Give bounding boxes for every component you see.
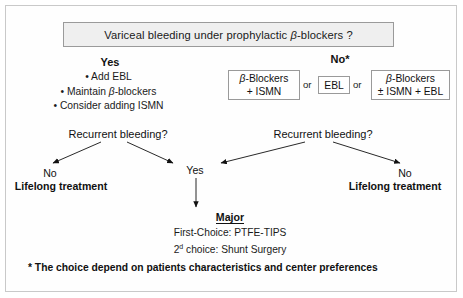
second-choice-text: choice: Shunt Surgery xyxy=(183,244,286,255)
decision-node-right: Recurrent bleeding? xyxy=(248,128,398,140)
treatment-box-line-1: β-Blockers xyxy=(240,72,289,85)
treatment-box-ebl: EBL xyxy=(318,76,350,94)
outcome-lifelong-right: Lifelong treatment xyxy=(335,180,455,192)
yes-branch-heading: Yes xyxy=(60,56,160,68)
outcome-no-right: No xyxy=(375,167,435,179)
outcome-no-left: No xyxy=(20,167,80,179)
treatment-box-betablockers-ismn-ebl: β-Blockers ± ISMN + EBL xyxy=(371,70,450,100)
bullet-item: • Consider adding ISMN xyxy=(6,99,211,114)
yes-branch-bullet-list: • Add EBL • Maintain β-blockers • Consid… xyxy=(6,70,211,114)
treatment-box-line-1: β-Blockers xyxy=(386,72,435,85)
treatment-box-betablockers-ismn: β-Blockers + ISMN xyxy=(228,70,300,100)
title-box: Variceal bleeding under prophylactic β-b… xyxy=(63,22,394,47)
major-heading-text: Major xyxy=(216,211,244,224)
major-heading: Major xyxy=(150,211,310,223)
major-second-choice: 2d choice: Shunt Surgery xyxy=(130,240,330,257)
outcome-yes-center: Yes xyxy=(170,164,220,176)
major-options: First-Choice: PTFE-TIPS 2d choice: Shunt… xyxy=(130,226,330,256)
bullet-item: • Add EBL xyxy=(6,70,211,85)
flowchart-figure: Variceal bleeding under prophylactic β-b… xyxy=(0,0,463,298)
major-first-choice: First-Choice: PTFE-TIPS xyxy=(130,226,330,240)
no-branch-heading: No* xyxy=(300,53,380,65)
or-connector: or xyxy=(303,79,312,90)
bullet-item: • Maintain β-blockers xyxy=(6,85,211,100)
treatment-box-line-1: EBL xyxy=(324,79,343,92)
or-connector: or xyxy=(353,79,362,90)
outcome-lifelong-left: Lifelong treatment xyxy=(6,180,116,192)
title-text: Variceal bleeding under prophylactic β-b… xyxy=(104,29,353,41)
treatment-box-line-2: + ISMN xyxy=(247,85,282,98)
decision-node-left: Recurrent bleeding? xyxy=(48,128,188,140)
treatment-box-line-2: ± ISMN + EBL xyxy=(378,85,443,98)
footnote-text: * The choice depend on patients characte… xyxy=(28,262,448,273)
